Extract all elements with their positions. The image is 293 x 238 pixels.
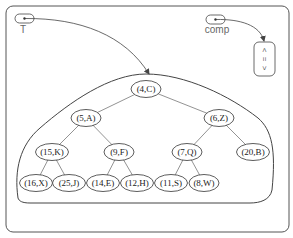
tree-node-label: (7,Q) [177,147,196,157]
comparator-box: < = > [254,42,275,76]
tree-node-label: (20,B) [241,147,264,157]
equals-symbol: = [260,57,269,62]
tree-node: (15,K) [36,144,69,161]
tree-node: (6,Z) [204,110,234,127]
tree-node: (25,J) [53,175,86,192]
tree-node-label: (11,S) [160,178,182,188]
greater-than-symbol: > [260,66,269,71]
tree-node: (7,Q) [172,144,202,161]
tree-node: (11,S) [155,175,188,192]
tree-node-label: (4,C) [137,84,156,94]
less-than-symbol: < [260,48,269,53]
tree-node-label: (6,Z) [210,113,228,123]
tree-node: (8,W) [189,175,219,192]
tree-node-label: (14,E) [92,178,115,188]
tree-edges [36,89,253,183]
outer-frame [6,6,289,232]
arrow-T-to-tree [25,18,149,74]
tree-node: (4,C) [131,81,161,98]
tree-node: (16,X) [20,175,53,192]
variable-label-T: T [20,24,26,35]
tree-nodes: (4,C)(5,A)(6,Z)(15,K)(9,F)(7,Q)(20,B)(16… [20,81,270,192]
variable-T: T [15,14,34,35]
variable-label-comp: comp [205,24,230,35]
tree-node-label: (25,J) [59,178,80,188]
variable-comp: comp [205,15,230,35]
tree-node: (12,H) [121,175,154,192]
tree-node-label: (16,X) [24,178,48,188]
tree-node-label: (5,A) [76,113,95,123]
tree-node: (14,E) [87,175,120,192]
tree-node-label: (15,K) [40,147,64,157]
tree-node-label: (9,F) [110,147,128,157]
tree-node: (20,B) [237,144,270,161]
heap-diagram: T comp < = > (4,C)(5,A)(6,Z)(15,K)(9,F)(… [0,0,293,238]
tree-node: (5,A) [71,110,101,127]
tree-node-label: (8,W) [193,178,214,188]
tree-node-label: (12,H) [125,178,149,188]
tree-node: (9,F) [104,144,134,161]
